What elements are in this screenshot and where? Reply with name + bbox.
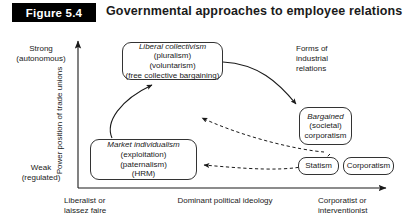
x-axis-right-label: Corporatist or interventionist xyxy=(318,196,398,216)
node-liberal-collectivism: Liberal collectivism (pluralism) (volunt… xyxy=(122,42,223,80)
x-axis-left-label-line2: laissez faire xyxy=(64,206,106,215)
node-bargained-corporatism-line3: corporatism xyxy=(305,131,347,141)
node-market-individualism: Market individualism (exploitation) (pat… xyxy=(90,139,197,180)
node-liberal-collectivism-line1: Liberal collectivism xyxy=(139,42,206,52)
arrow-liberal-to-bargained xyxy=(223,62,296,104)
x-axis-left-label-line1: Liberalist or xyxy=(64,196,105,205)
forms-annotation-line2: industrial xyxy=(296,54,376,64)
y-axis-bottom-label: Weak (regulated) xyxy=(8,163,74,183)
node-market-individualism-line4: (HRM) xyxy=(132,169,156,179)
node-bargained-corporatism-line2: (societal) xyxy=(309,121,341,131)
forms-annotation-line3: relations xyxy=(296,64,376,74)
figure-container: Figure 5.4 Governmental approaches to em… xyxy=(0,0,406,224)
node-market-individualism-line3: (paternalism) xyxy=(120,160,167,170)
node-liberal-collectivism-line4: (free collective bargaining) xyxy=(126,71,220,81)
node-bargained-corporatism-line1: Bargained xyxy=(307,112,343,122)
node-corporatism: Corporatism xyxy=(343,157,394,175)
node-statism-label: Statism xyxy=(305,161,332,171)
x-axis-right-label-line1: Corporatist or xyxy=(318,196,366,205)
forms-annotation-line1: Forms of xyxy=(296,44,376,54)
y-axis-top-label-line1: Strong xyxy=(29,44,53,53)
node-statism: Statism xyxy=(298,157,339,175)
node-market-individualism-line1: Market individualism xyxy=(107,140,179,150)
y-axis-bottom-label-line1: Weak xyxy=(31,163,51,172)
y-axis-top-label: Strong (autonomous) xyxy=(8,44,74,64)
node-bargained-corporatism: Bargained (societal) corporatism xyxy=(299,107,352,145)
arrow-market-to-liberal xyxy=(110,85,152,138)
node-liberal-collectivism-line3: (voluntarism) xyxy=(149,61,195,71)
forms-of-industrial-relations-annotation: Forms of industrial relations xyxy=(296,44,376,74)
x-axis-left-label: Liberalist or laissez faire xyxy=(64,196,134,216)
x-axis-right-label-line2: interventionist xyxy=(318,206,367,215)
y-axis-title: Power position of trade unions xyxy=(55,56,64,186)
x-axis-title: Dominant political ideology xyxy=(150,196,300,206)
node-corporatism-label: Corporatism xyxy=(347,161,391,171)
node-market-individualism-line2: (exploitation) xyxy=(121,150,167,160)
node-liberal-collectivism-line2: (pluralism) xyxy=(154,51,191,61)
